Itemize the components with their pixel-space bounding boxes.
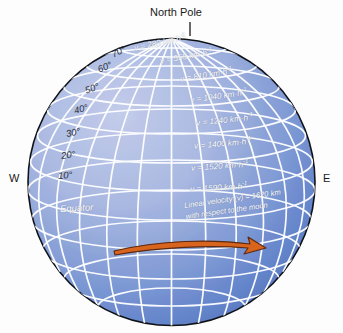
globe-figure: North Pole W E 70° 60° 50° 40° 30° 20° 1… — [0, 0, 343, 333]
globe-graphic — [0, 0, 343, 333]
